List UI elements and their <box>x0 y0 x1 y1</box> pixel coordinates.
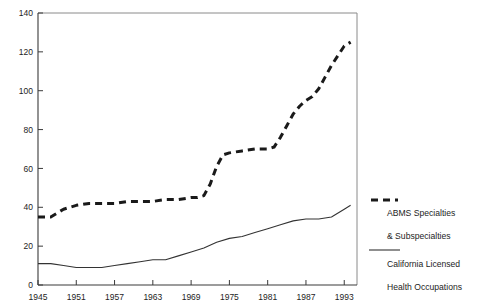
chart-container: 020406080100120140 194519511957196319691… <box>0 0 480 307</box>
y-tick-label: 0 <box>28 280 33 290</box>
y-tick-label: 140 <box>19 8 33 18</box>
x-tick-label: 1957 <box>105 292 124 302</box>
y-tick-label: 100 <box>19 86 33 96</box>
y-tick-label: 20 <box>24 241 34 251</box>
series-line-abms <box>38 42 351 217</box>
data-series-layer <box>38 42 351 267</box>
line-chart: 020406080100120140 194519511957196319691… <box>0 0 480 307</box>
series-line-california <box>38 205 351 267</box>
x-axis-tick-labels: 194519511957196319691975198119871993 <box>29 292 354 302</box>
y-tick-label: 80 <box>24 125 34 135</box>
x-tick-label: 1945 <box>29 292 48 302</box>
plot-frame <box>38 13 357 285</box>
x-tick-label: 1951 <box>67 292 86 302</box>
x-tick-label: 1993 <box>335 292 354 302</box>
x-tick-label: 1969 <box>182 292 201 302</box>
y-tick-label: 60 <box>24 164 34 174</box>
x-tick-label: 1963 <box>143 292 162 302</box>
legend-label-abms-line2: & Subspecialties <box>387 231 451 241</box>
x-axis-ticks <box>38 280 344 285</box>
x-tick-label: 1981 <box>258 292 277 302</box>
y-axis-tick-labels: 020406080100120140 <box>19 8 33 290</box>
legend-label-california-line1: California Licensed <box>387 259 460 269</box>
y-tick-label: 40 <box>24 202 34 212</box>
chart-legend: ABMS Specialties & Subspecialties Califo… <box>369 200 462 292</box>
legend-label-california-line2: Health Occupations <box>387 282 462 292</box>
x-tick-label: 1975 <box>220 292 239 302</box>
y-axis-ticks <box>38 13 43 285</box>
x-tick-label: 1987 <box>296 292 315 302</box>
legend-label-abms-line1: ABMS Specialties <box>387 208 455 218</box>
y-tick-label: 120 <box>19 47 33 57</box>
